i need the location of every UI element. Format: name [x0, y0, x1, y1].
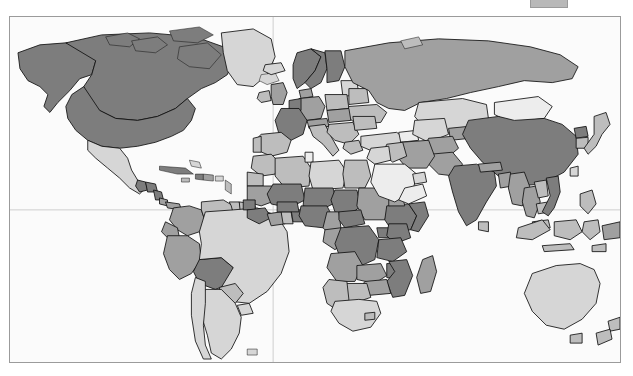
- country-papua-new-guinea: [602, 222, 620, 240]
- country-lesotho: [365, 312, 375, 320]
- country-indonesia-borneo: [554, 220, 582, 240]
- country-syria-jordan-israel-lebanon: [367, 146, 391, 164]
- island-falkland: [247, 349, 257, 355]
- region-south-america: [162, 200, 290, 359]
- island-bahamas: [189, 160, 201, 168]
- country-haiti: [195, 174, 203, 180]
- country-indonesia-java: [542, 244, 574, 252]
- country-central-african-republic: [339, 210, 365, 228]
- country-new-zealand-south: [596, 329, 612, 345]
- country-ghana: [281, 212, 293, 224]
- country-burkina-faso: [277, 202, 299, 212]
- country-sri-lanka: [478, 222, 488, 232]
- country-australia: [524, 264, 600, 330]
- country-western-sahara: [247, 172, 263, 186]
- country-libya: [309, 160, 347, 190]
- country-egypt: [343, 160, 371, 188]
- country-tasmania: [570, 333, 582, 343]
- country-tunisia: [305, 152, 313, 162]
- country-dominican-republic: [203, 174, 213, 181]
- island-ellesmere: [169, 27, 213, 43]
- country-tanzania: [377, 238, 407, 262]
- top-toolbar-chip[interactable]: [530, 0, 568, 8]
- country-nepal-bhutan: [478, 162, 502, 172]
- country-madagascar: [417, 256, 437, 294]
- country-belarus: [349, 89, 369, 105]
- country-indonesia-sumatra: [516, 220, 550, 240]
- country-romania: [353, 116, 377, 130]
- world-choropleth-map: [10, 17, 620, 362]
- country-timor: [592, 244, 606, 252]
- world-map-frame: [9, 16, 621, 363]
- country-india: [449, 164, 497, 226]
- region-north-america: [18, 27, 279, 210]
- country-uae-qatar: [413, 172, 427, 184]
- country-united-kingdom: [271, 83, 287, 105]
- screenshot-root: [0, 0, 633, 376]
- country-taiwan: [570, 166, 578, 176]
- country-japan: [584, 112, 610, 154]
- country-cuba: [160, 166, 194, 174]
- country-greece: [343, 140, 363, 154]
- country-indonesia-sulawesi: [582, 220, 600, 240]
- island-lesser-antilles: [225, 180, 231, 194]
- country-senegal-gambia: [243, 200, 255, 210]
- country-finland: [325, 51, 345, 83]
- country-north-korea: [574, 126, 588, 138]
- country-portugal: [253, 136, 261, 152]
- country-poland: [325, 95, 349, 111]
- island-iceland: [259, 73, 279, 85]
- country-czech-slovakia-hungary: [327, 108, 351, 122]
- island-jamaica: [181, 178, 189, 182]
- country-ireland: [257, 91, 271, 103]
- island-puerto-rico: [215, 176, 223, 181]
